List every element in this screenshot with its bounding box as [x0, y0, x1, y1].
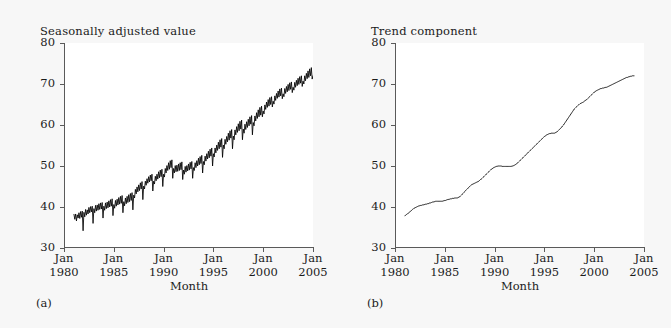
panel-a-x-axis: [64, 247, 314, 248]
panel-b: Trend component 807060504030 Jan1980Jan1…: [331, 0, 666, 328]
y-tick-label-text: 80: [360, 37, 386, 49]
y-tick-mark: [391, 125, 395, 126]
panel-b-plot-area: [395, 43, 644, 248]
panel-a-subfigure-label: (a): [36, 296, 52, 310]
y-tick-mark: [391, 84, 395, 85]
x-tick-month: Jan: [614, 252, 671, 266]
y-tick-label: 70: [29, 78, 55, 90]
y-tick-label-text: 40: [360, 201, 386, 213]
panel-b-x-axis: [395, 247, 645, 248]
y-tick-label: 70: [360, 78, 386, 90]
y-tick-label-text: 60: [360, 119, 386, 131]
y-tick-label-text: 50: [29, 160, 55, 172]
seasonally-adjusted-series: [74, 68, 313, 231]
panel-a: Seasonally adjusted value 807060504030 J…: [0, 0, 335, 328]
y-tick-mark: [60, 125, 64, 126]
panel-b-title: Trend component: [371, 24, 477, 38]
y-tick-mark: [60, 84, 64, 85]
panel-a-title: Seasonally adjusted value: [40, 24, 196, 38]
x-tick-year: 2005: [614, 266, 671, 280]
y-tick-mark: [60, 207, 64, 208]
panel-b-series-svg: [395, 43, 644, 248]
y-tick-mark: [60, 43, 64, 44]
y-tick-label: 80: [360, 37, 386, 49]
trend-component-series: [405, 76, 634, 216]
panel-b-subfigure-label: (b): [367, 296, 383, 310]
panel-a-plot-area: [64, 43, 313, 248]
x-tick-label: Jan2005: [614, 252, 671, 279]
panel-b-y-axis: [395, 43, 396, 248]
y-tick-label: 50: [360, 160, 386, 172]
y-tick-label-text: 80: [29, 37, 55, 49]
y-tick-mark: [391, 207, 395, 208]
panel-a-x-axis-title: Month: [64, 279, 314, 293]
y-tick-label: 80: [29, 37, 55, 49]
y-tick-label-text: 70: [360, 78, 386, 90]
figure-container: Seasonally adjusted value 807060504030 J…: [0, 0, 671, 328]
y-tick-label: 60: [360, 119, 386, 131]
panel-a-series-svg: [64, 43, 313, 248]
y-tick-label: 40: [29, 201, 55, 213]
y-tick-mark: [391, 166, 395, 167]
y-tick-label-text: 60: [29, 119, 55, 131]
y-tick-mark: [391, 43, 395, 44]
y-tick-label-text: 50: [360, 160, 386, 172]
panel-a-y-axis: [64, 43, 65, 248]
y-tick-label-text: 70: [29, 78, 55, 90]
y-tick-label: 60: [29, 119, 55, 131]
y-tick-label: 40: [360, 201, 386, 213]
y-tick-label-text: 40: [29, 201, 55, 213]
y-tick-label: 50: [29, 160, 55, 172]
panel-b-x-axis-title: Month: [395, 279, 645, 293]
y-tick-mark: [60, 166, 64, 167]
